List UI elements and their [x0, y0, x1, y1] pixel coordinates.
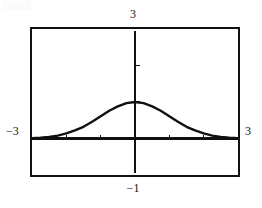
- graph-canvas: [32, 29, 238, 175]
- calculator-graph-screenshot: 3 −3 3 −1: [0, 0, 262, 208]
- y-axis-min-label: −1: [2, 181, 262, 196]
- x-axis-min-label: −3: [6, 124, 19, 139]
- plot-frame: [30, 27, 240, 177]
- y-axis-max-label: 3: [2, 7, 262, 22]
- x-axis-max-label: 3: [245, 124, 251, 139]
